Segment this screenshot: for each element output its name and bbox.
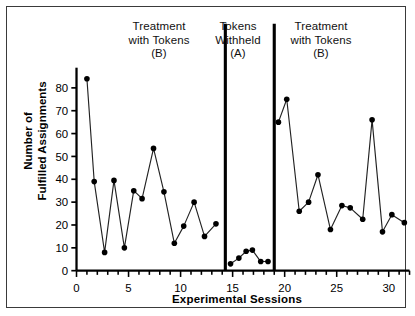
data-point [191,199,197,205]
data-point [347,205,353,211]
x-tick-label: 0 [73,282,79,294]
data-point [276,119,282,125]
data-point [284,96,290,102]
data-point [265,259,271,265]
data-point [296,208,302,214]
x-tick-label: 5 [125,282,131,294]
data-point [402,220,408,226]
data-point [243,248,249,254]
data-point [122,245,128,251]
data-point [181,223,187,229]
data-point [315,172,321,178]
y-tick-label: 40 [56,173,69,185]
data-point [102,250,108,256]
data-point [328,227,334,233]
data-point [369,117,375,123]
y-tick-label: 10 [56,242,69,254]
data-point [202,234,208,240]
series-line-phase-0 [87,79,216,253]
y-tick-label: 20 [56,219,69,231]
x-tick-label: 20 [278,282,291,294]
data-point [380,229,386,235]
data-point [213,221,219,227]
figure-frame: Treatment with Tokens (B) Tokens Withhel… [6,6,406,308]
chart-plot-area: 01020304050607080051015202530 [7,7,415,316]
data-point [131,188,137,194]
data-point [111,178,117,184]
data-point [389,212,395,218]
data-point [258,259,264,265]
data-point [139,196,145,202]
x-tick-label: 25 [330,282,343,294]
data-point [360,216,366,222]
data-point [250,247,256,253]
data-point [161,189,167,195]
data-point [151,146,157,152]
y-tick-label: 60 [56,128,69,140]
data-point [339,203,345,209]
data-point [91,179,97,185]
x-tick-label: 15 [226,282,239,294]
y-tick-label: 0 [62,265,68,277]
y-tick-label: 80 [56,82,69,94]
data-point [228,261,234,267]
data-point [236,255,242,261]
y-tick-label: 50 [56,151,69,163]
y-tick-label: 30 [56,196,69,208]
data-point [306,199,312,205]
data-point [172,240,178,246]
y-tick-label: 70 [56,105,69,117]
x-tick-label: 10 [174,282,187,294]
x-tick-label: 30 [382,282,395,294]
data-point [84,76,90,82]
